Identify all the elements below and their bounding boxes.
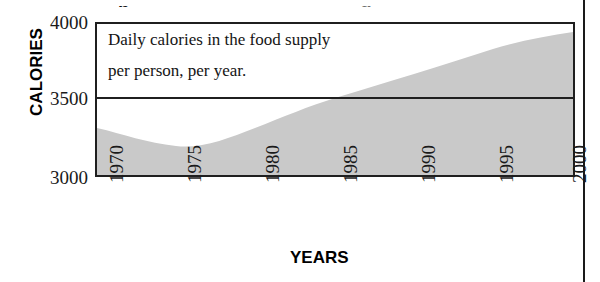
x-tick-label-1985: 1985	[341, 113, 360, 183]
x-tick-label-1980: 1980	[263, 113, 282, 183]
x-tick-label-1990: 1990	[419, 113, 438, 183]
x-tick-label-2000: 2000	[570, 113, 589, 183]
x-axis-title: YEARS	[290, 248, 349, 268]
x-tick-label-1975: 1975	[185, 113, 204, 183]
x-tick-label-1995: 1995	[497, 113, 516, 183]
x-axis-tick-labels: 1970 1975 1980 1985 1990 1995 2000	[0, 0, 600, 282]
chart-figure: p g CALORIES 4000 3500 3000 Daily calori…	[0, 0, 600, 282]
x-tick-label-1970: 1970	[107, 113, 126, 183]
